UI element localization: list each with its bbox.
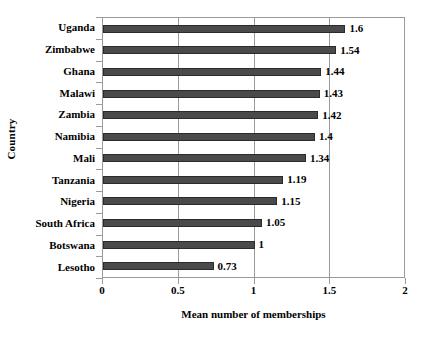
bar — [103, 154, 306, 162]
bar-value-label: 1.44 — [325, 66, 344, 77]
bar-value-label: 1.34 — [310, 153, 329, 164]
bar — [103, 262, 214, 270]
x-axis-title: Mean number of memberships — [102, 308, 405, 320]
bar-value-label: 1.42 — [322, 110, 341, 121]
y-axis-category-label: Malawi — [18, 82, 100, 104]
bar — [103, 133, 315, 141]
bar-row: 1.4 — [103, 126, 404, 148]
bar — [103, 25, 345, 33]
bar-value-label: 1.6 — [349, 23, 363, 34]
bar-value-label: 1.43 — [324, 88, 343, 99]
y-axis-category-label: Zambia — [18, 104, 100, 126]
y-axis-category-label: Tanzania — [18, 169, 100, 191]
bar — [103, 46, 336, 54]
bar-row: 1.34 — [103, 147, 404, 169]
x-axis-tick-label: 1.5 — [322, 285, 336, 296]
bar-chart: Country UgandaZimbabweGhanaMalawiZambiaN… — [0, 0, 425, 337]
bar-row: 1.44 — [103, 61, 404, 83]
bar — [103, 176, 283, 184]
bar — [103, 111, 318, 119]
plot-area: 1.61.541.441.431.421.41.341.191.151.0510… — [102, 17, 405, 278]
bar-value-label: 0.73 — [218, 261, 237, 272]
bar — [103, 241, 255, 249]
bar-row: 1.43 — [103, 83, 404, 105]
y-axis-category-labels: UgandaZimbabweGhanaMalawiZambiaNamibiaMa… — [18, 17, 100, 278]
bar-value-label: 1.05 — [266, 217, 285, 228]
y-axis-title-label: Country — [5, 118, 17, 159]
y-axis-category-label: Nigeria — [18, 191, 100, 213]
y-axis-category-label: Lesotho — [18, 256, 100, 278]
x-axis-tick-label: 1 — [251, 285, 257, 296]
bar-row: 1.05 — [103, 212, 404, 234]
bar-rows: 1.61.541.441.431.421.41.341.191.151.0510… — [103, 18, 404, 277]
y-axis-category-label: Zimbabwe — [18, 39, 100, 61]
bar-row: 1.54 — [103, 40, 404, 62]
bar-value-label: 1.54 — [340, 45, 359, 56]
y-axis-category-label: Mali — [18, 148, 100, 170]
bar-row: 1.6 — [103, 18, 404, 40]
bar-row: 0.73 — [103, 255, 404, 277]
y-axis-category-label: South Africa — [18, 213, 100, 235]
bar-value-label: 1.4 — [319, 131, 333, 142]
bar-value-label: 1.15 — [281, 196, 300, 207]
bar-row: 1 — [103, 234, 404, 256]
x-axis-tick-label: 2 — [402, 285, 408, 296]
bar-row: 1.19 — [103, 169, 404, 191]
x-axis-tick-labels: 00.511.52 — [102, 285, 405, 301]
x-axis-tick-label: 0.5 — [171, 285, 185, 296]
y-axis-category-label: Uganda — [18, 17, 100, 39]
bar-row: 1.42 — [103, 104, 404, 126]
bar-row: 1.15 — [103, 191, 404, 213]
bar — [103, 68, 321, 76]
y-axis-category-label: Namibia — [18, 126, 100, 148]
bar — [103, 197, 277, 205]
y-axis-category-label: Ghana — [18, 61, 100, 83]
bar — [103, 219, 262, 227]
y-axis-category-label: Botswana — [18, 235, 100, 257]
bar-value-label: 1.19 — [287, 174, 306, 185]
bar-value-label: 1 — [259, 239, 265, 250]
bar — [103, 90, 320, 98]
x-axis-tick-label: 0 — [99, 285, 105, 296]
